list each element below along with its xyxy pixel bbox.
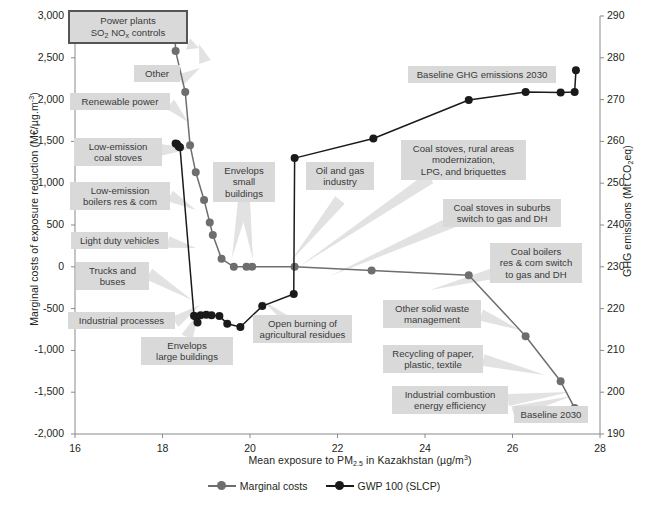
annotation-coal-boilers: Coal boilers res & com switch to gas and… [490,243,582,283]
y-tick-left: -500 [18,302,64,314]
legend-item: GWP 100 (SLCP) [326,479,441,492]
y-tick-left: -2,000 [18,427,64,439]
annotation-envelops-large-buildings: Envelops large buildings [141,337,233,365]
legend-swatch-icon [208,481,236,491]
annotation-baseline-ghg-2030: Baseline GHG emissions 2030 [408,66,556,83]
x-tick: 24 [405,442,445,454]
x-tick: 18 [143,442,183,454]
annotation-low-emission-coal-stoves: Low-emission coal stoves [74,138,162,166]
annotation-coal-stoves-suburbs: Coal stoves in suburbs switch to gas and… [443,199,561,227]
y-tick-right: 200 [607,385,648,397]
annotation-trucks-and-buses: Trucks and buses [76,262,149,290]
y-tick-right: 280 [607,51,648,63]
y-tick-left: 3,000 [18,9,64,21]
y-tick-left: 2,000 [18,93,64,105]
y-tick-right: 250 [607,176,648,188]
annotation-industrial-combustion: Industrial combustion energy efficiency [392,386,508,414]
legend-item: Marginal costs [208,479,308,492]
y-tick-left: 1,500 [18,134,64,146]
annotation-renewable-power: Renewable power [70,93,170,110]
y-tick-right: 290 [607,9,648,21]
x-tick: 26 [493,442,533,454]
annotation-coal-stoves-rural: Coal stoves, rural areas modernization, … [401,140,526,180]
annotation-baseline-2030: Baseline 2030 [514,406,588,423]
y-tick-left: -1,500 [18,385,64,397]
x-tick: 22 [318,442,358,454]
y-tick-right: 230 [607,260,648,272]
annotation-other: Other [134,65,180,82]
x-tick: 20 [230,442,270,454]
y-tick-left: 0 [18,260,64,272]
y-tick-left: 2,500 [18,51,64,63]
chart-figure: Marginal costs of exposure reduction (M€… [0,0,648,505]
y-tick-right: 270 [607,93,648,105]
annotation-recycling: Recycling of paper, plastic, textile [383,345,483,373]
y-tick-right: 210 [607,343,648,355]
annotation-low-emission-boilers: Low-emission boilers res & com [70,182,170,210]
y-tick-left: -1,000 [18,343,64,355]
annotation-envelops-small-buildings: Envelops small buildings [213,162,275,202]
annotation-oil-and-gas: Oil and gas industry [306,162,374,190]
x-axis-title: Mean exposure to PM2.5 in Kazakhstan (µg… [150,454,570,466]
y-tick-right: 220 [607,302,648,314]
y-tick-left: 500 [18,218,64,230]
annotation-power-plants: Power plantsSO2 NOx controls [68,10,188,44]
y-tick-right: 260 [607,134,648,146]
y-tick-left: 1,000 [18,176,64,188]
y-tick-right: 190 [607,427,648,439]
x-tick: 28 [580,442,620,454]
annotation-light-duty-vehicles: Light duty vehicles [71,232,168,249]
annotation-industrial-processes: Industrial processes [68,312,175,329]
legend-swatch-icon [326,481,354,491]
legend-label: Marginal costs [240,480,308,492]
x-tick: 16 [55,442,95,454]
y-tick-right: 240 [607,218,648,230]
annotation-open-burning: Open burning of agricultural residues [253,315,352,343]
annotation-other-solid-waste: Other solid waste management [383,300,481,328]
legend-label: GWP 100 (SLCP) [358,480,441,492]
y-axis-left-title: Marginal costs of exposure reduction (M€… [28,79,40,339]
chart-legend: Marginal costsGWP 100 (SLCP) [0,478,648,492]
